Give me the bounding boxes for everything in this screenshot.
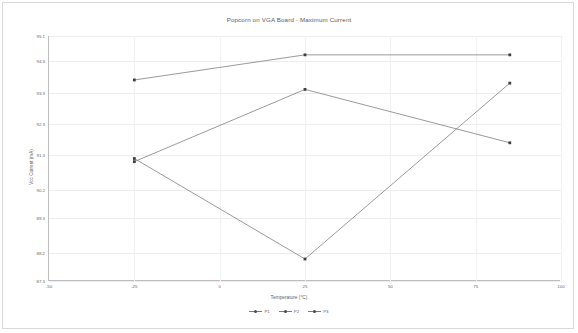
data-point-marker	[133, 157, 136, 160]
legend-item-P1[interactable]: P1	[249, 309, 269, 314]
y-tick-label: 89.3	[36, 216, 45, 221]
legend-item-P3[interactable]: P3	[308, 309, 328, 314]
data-point-marker	[133, 79, 136, 82]
x-tick-label: -50	[46, 284, 52, 289]
x-tick-label: 0	[218, 284, 220, 289]
series-line-P3	[134, 89, 509, 161]
chart-legend: P1P2P3	[0, 309, 578, 314]
data-point-marker	[508, 53, 511, 56]
data-series-layer	[49, 36, 561, 281]
series-line-P2	[134, 55, 509, 80]
x-gridline	[561, 36, 562, 281]
data-point-marker	[304, 53, 307, 56]
y-tick-label: 87.3	[36, 279, 45, 284]
x-tick-label: 75	[473, 284, 478, 289]
x-tick-label: -25	[131, 284, 137, 289]
legend-marker-icon	[279, 310, 292, 314]
legend-marker-icon	[249, 310, 262, 314]
series-line-P1	[134, 83, 509, 259]
y-tick-label: 88.2	[36, 250, 45, 255]
x-tick-label: 50	[388, 284, 393, 289]
y-tick-label: 95.1	[36, 34, 45, 39]
y-tick-label: 92.3	[36, 121, 45, 126]
y-gridline	[49, 281, 561, 282]
data-point-marker	[508, 141, 511, 144]
y-tick-label: 91.3	[36, 153, 45, 158]
y-tick-label: 93.3	[36, 90, 45, 95]
legend-label: P3	[323, 309, 328, 314]
data-point-marker	[133, 160, 136, 163]
x-axis-label: Temperature (°C)	[0, 295, 578, 300]
legend-label: P2	[294, 309, 299, 314]
y-tick-label: 90.2	[36, 187, 45, 192]
x-tick-label: 100	[557, 284, 564, 289]
y-tick-label: 94.3	[36, 59, 45, 64]
legend-item-P2[interactable]: P2	[279, 309, 299, 314]
x-tick-label: 25	[303, 284, 308, 289]
legend-label: P1	[264, 309, 269, 314]
chart-title: Popcorn on VGA Board - Maximum Current	[0, 16, 578, 23]
data-point-marker	[304, 88, 307, 91]
plot-area: 87.388.289.390.291.392.393.394.395.1 -50…	[48, 36, 560, 281]
chart-screenshot: Popcorn on VGA Board - Maximum Current 8…	[0, 0, 578, 333]
legend-marker-icon	[308, 310, 321, 314]
y-axis-label: Vcc Current (mA)	[29, 149, 34, 184]
data-point-marker	[304, 258, 307, 261]
data-point-marker	[508, 82, 511, 85]
